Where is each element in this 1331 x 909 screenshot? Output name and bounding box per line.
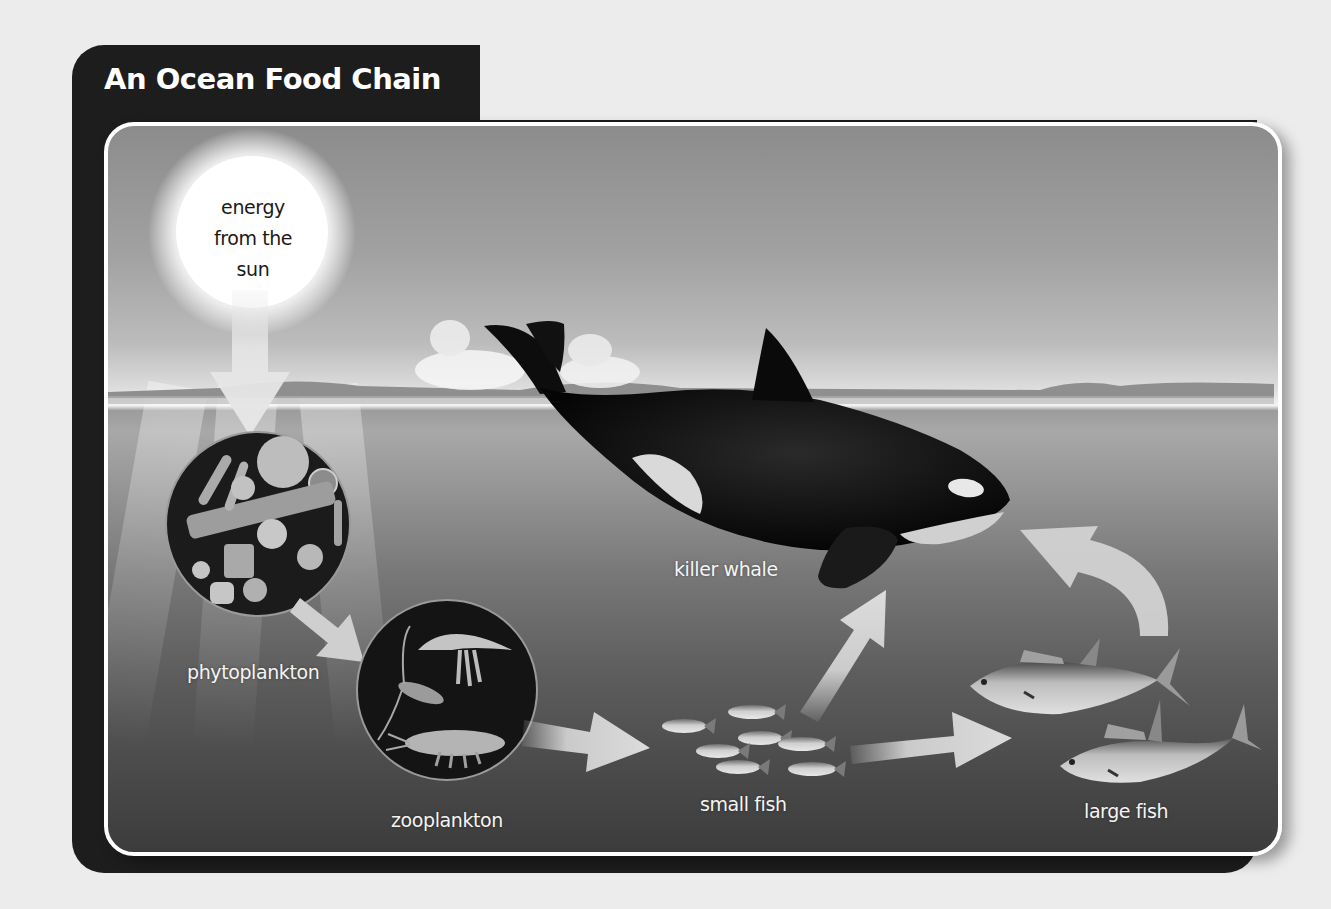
sun-label-line: sun [186,254,320,285]
sun-label-line: from the [186,223,320,254]
scene-illustration [0,0,1331,909]
killer-whale [484,321,1010,588]
sun-label-line: energy [186,192,320,223]
zooplankton-label: zooplankton [391,809,503,831]
arrow-large-fish-to-killer-whale [1020,526,1168,636]
sun-label: energy from the sun [186,192,320,285]
small-fish-label: small fish [700,793,787,815]
food-chain-diagram: An Ocean Food Chain [0,0,1331,909]
zooplankton-inset [357,600,537,780]
arrow-small-fish-to-killer-whale [800,590,886,722]
arrow-zooplankton-to-small-fish [522,712,650,772]
large-fish-1 [970,638,1190,714]
phytoplankton-inset [166,432,350,616]
killer-whale-label: killer whale [674,558,778,580]
arrow-phytoplankton-to-zooplankton [290,598,364,662]
arrow-small-fish-to-large-fish [850,712,1012,768]
large-fish-label: large fish [1084,800,1168,822]
large-fish-2 [1060,700,1262,783]
phytoplankton-label: phytoplankton [187,661,319,683]
